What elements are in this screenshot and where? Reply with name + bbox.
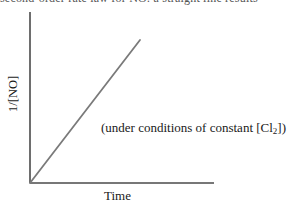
x-axis-label: Time bbox=[104, 188, 131, 204]
annotation-prefix: (under conditions of constant [Cl bbox=[101, 120, 273, 135]
chart-annotation: (under conditions of constant [Cl2]) bbox=[101, 120, 286, 136]
y-axis-label: 1/[NO] bbox=[6, 76, 21, 112]
data-line bbox=[30, 40, 140, 183]
chart-plot-area bbox=[0, 0, 287, 208]
annotation-suffix: ]) bbox=[277, 120, 286, 135]
